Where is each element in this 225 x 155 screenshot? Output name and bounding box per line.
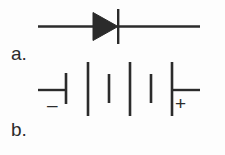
circuit-symbols-figure: – + a. b.: [0, 0, 225, 155]
diode-symbol-group: [38, 9, 200, 44]
diode-anode-triangle: [93, 13, 118, 41]
battery-negative-terminal-label: –: [47, 96, 58, 113]
schematic-canvas: [0, 0, 225, 155]
battery-positive-terminal-label: +: [175, 95, 186, 112]
part-label-a: a.: [11, 44, 27, 63]
part-label-b: b.: [11, 120, 27, 139]
